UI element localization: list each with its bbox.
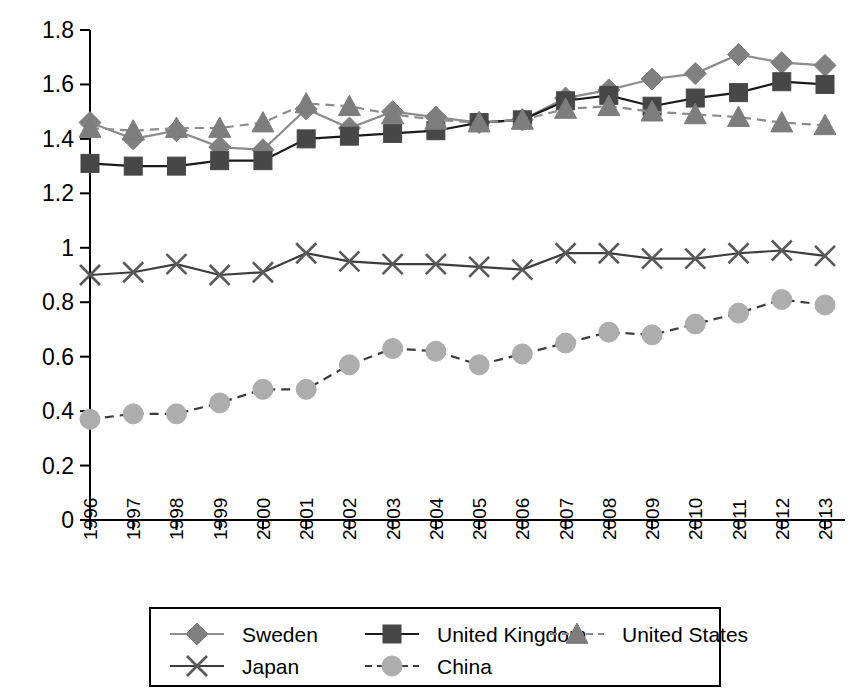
series-japan (80, 241, 835, 286)
marker-triangle (252, 112, 274, 132)
marker-square (773, 73, 791, 91)
y-tick-label: 0.8 (42, 289, 74, 315)
x-tick-label: 2013 (815, 498, 836, 540)
marker-diamond (684, 63, 706, 85)
series-line (90, 251, 825, 276)
marker-circle (123, 404, 143, 424)
y-tick-label: 0.4 (42, 398, 74, 424)
x-tick-label: 1998 (166, 498, 187, 540)
marker-circle (166, 404, 186, 424)
x-tick-label: 2008 (599, 498, 620, 540)
y-tick-label: 0.6 (42, 344, 74, 370)
marker-diamond (771, 52, 793, 74)
chart-legend: SwedenUnited KingdomUnited StatesJapanCh… (150, 608, 748, 686)
data-series-group (79, 44, 836, 430)
legend-border (150, 608, 720, 686)
marker-circle (815, 295, 835, 315)
marker-square (211, 152, 229, 170)
marker-square (167, 157, 185, 175)
marker-circle (512, 344, 532, 364)
marker-square (297, 130, 315, 148)
marker-circle (685, 314, 705, 334)
marker-diamond (641, 68, 663, 90)
marker-circle (383, 339, 403, 359)
marker-square (124, 157, 142, 175)
marker-square (383, 625, 401, 643)
marker-square (730, 84, 748, 102)
marker-diamond (814, 54, 836, 76)
marker-circle (426, 341, 446, 361)
marker-circle (382, 656, 402, 676)
marker-triangle (295, 93, 317, 113)
series-united-states (79, 93, 836, 141)
marker-square (384, 124, 402, 142)
y-tick-label: 1.6 (42, 71, 74, 97)
marker-circle (772, 290, 792, 310)
x-tick-label: 2007 (556, 498, 577, 540)
x-tick-label: 2011 (729, 499, 750, 540)
y-tick-label: 1 (61, 235, 74, 261)
x-tick-label: 2009 (642, 498, 663, 540)
marker-circle (253, 379, 273, 399)
x-tick-label: 2010 (685, 498, 706, 540)
x-tick-label: 2006 (512, 498, 533, 540)
legend-item-label: China (437, 655, 492, 678)
x-tick-label: 1997 (123, 498, 144, 540)
x-tick-label: 2000 (253, 498, 274, 540)
marker-circle (339, 355, 359, 375)
marker-square (816, 75, 834, 93)
marker-x (166, 254, 186, 274)
y-tick-label: 1.4 (42, 126, 74, 152)
y-tick-label: 0.2 (42, 453, 74, 479)
series-china (80, 290, 835, 430)
x-tick-label: 2003 (383, 498, 404, 540)
marker-x (296, 243, 316, 263)
legend-item-label: Sweden (242, 623, 318, 646)
series-line (90, 82, 825, 166)
y-tick-label: 1.2 (42, 180, 74, 206)
x-tick-label: 1999 (210, 498, 231, 540)
series-united-kingdom (81, 73, 834, 175)
y-axis: 00.20.40.60.811.21.41.61.8 (42, 17, 90, 533)
series-sweden (79, 44, 836, 161)
legend-item-label: United States (622, 623, 748, 646)
marker-circle (80, 409, 100, 429)
x-tick-label: 1996 (80, 498, 101, 540)
marker-circle (296, 379, 316, 399)
marker-circle (642, 325, 662, 345)
marker-circle (469, 355, 489, 375)
x-tick-label: 2012 (772, 498, 793, 540)
marker-circle (210, 393, 230, 413)
marker-circle (556, 333, 576, 353)
x-tick-label: 2004 (426, 497, 447, 540)
legend-item-label: Japan (242, 655, 299, 678)
chart-canvas: 00.20.40.60.811.21.41.61.8 1996199719981… (0, 0, 868, 699)
y-tick-label: 1.8 (42, 17, 74, 43)
series-line (90, 55, 825, 150)
x-axis: 1996199719981999200020012002200320042005… (80, 497, 845, 540)
series-line (90, 300, 825, 420)
line-chart: 00.20.40.60.811.21.41.61.8 1996199719981… (0, 0, 868, 699)
marker-square (81, 154, 99, 172)
y-tick-label: 0 (61, 507, 74, 533)
marker-circle (729, 303, 749, 323)
x-tick-label: 2005 (469, 498, 490, 540)
marker-square (254, 152, 272, 170)
x-tick-label: 2001 (296, 498, 317, 540)
marker-square (340, 127, 358, 145)
marker-circle (599, 322, 619, 342)
x-tick-label: 2002 (339, 498, 360, 540)
marker-diamond (728, 44, 750, 66)
